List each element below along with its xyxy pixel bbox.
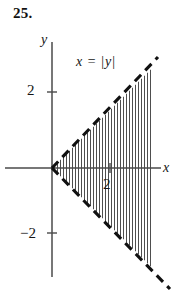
equation-relation: = [87,54,97,69]
x-axis-label: x [163,161,169,175]
absolute-value-close-bar: | [112,54,116,69]
graph-plot [0,0,177,293]
x-tick-label-2: 2 [103,177,111,192]
y-axis-label: y [41,33,47,47]
y-axis [47,42,57,277]
y-tick-label-2: 2 [27,83,35,98]
equation-variable: y [105,54,112,69]
equation-lhs: x [76,54,83,69]
equation-label: x = |y| [76,55,116,69]
figure-container: 25. [0,0,177,293]
y-tick-label-negative-2: −2 [20,226,36,241]
